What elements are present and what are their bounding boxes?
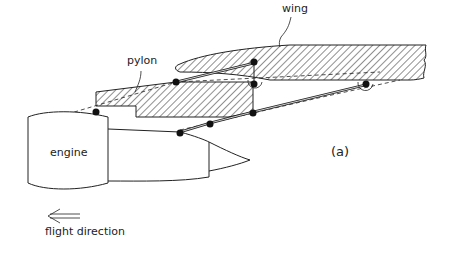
wing-label: wing [282,2,308,15]
engine-label: engine [50,146,88,159]
wing-shape [176,45,427,80]
pylon-wing-diagram [0,0,450,255]
pylon-shape [96,82,253,117]
engine-exhaust-cone [209,142,250,171]
flight-direction-label: flight direction [45,225,125,238]
flight-direction-arrow-icon [48,209,80,223]
panel-label: (a) [331,144,349,159]
pylon-label: pylon [127,54,157,67]
engine-core [108,129,209,181]
